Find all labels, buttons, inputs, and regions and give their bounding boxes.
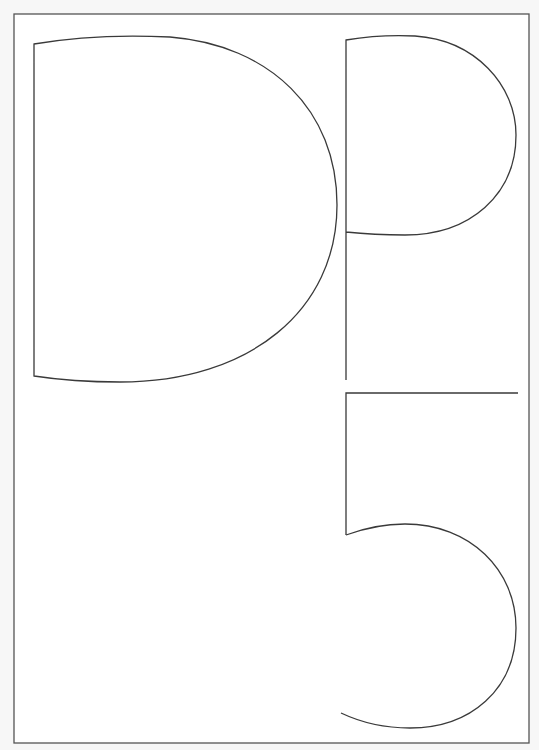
artwork-canvas — [0, 0, 539, 750]
frame-border — [14, 14, 529, 743]
